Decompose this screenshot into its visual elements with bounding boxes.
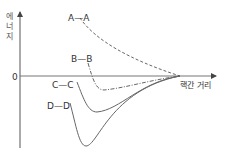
energy-diagram (0, 0, 225, 152)
curve-c (77, 76, 180, 112)
label-d: D—D (47, 101, 70, 111)
label-c: C—C (52, 80, 74, 90)
y-label-char: 지 (6, 32, 16, 42)
label-a: A—A (68, 13, 89, 23)
y-label-char: 에 (6, 12, 16, 22)
curve-a (80, 18, 180, 76)
label-b: B—B (71, 54, 92, 64)
y-axis-label: 에 너 지 (6, 12, 16, 42)
y-label-char: 너 (6, 22, 16, 32)
x-axis-label: 핵간 거리 (180, 81, 211, 91)
zero-label: 0 (12, 72, 18, 82)
curve-d (70, 76, 180, 146)
